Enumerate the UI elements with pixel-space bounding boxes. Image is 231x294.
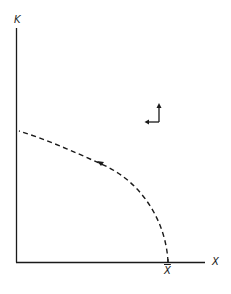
x-axis-label: X bbox=[212, 257, 219, 267]
direction-arrows-icon bbox=[145, 103, 162, 125]
trajectory-curve bbox=[19, 131, 168, 262]
k-axis-label: K bbox=[14, 15, 21, 25]
phase-diagram bbox=[0, 0, 231, 294]
x-bar-label: X bbox=[164, 266, 171, 276]
